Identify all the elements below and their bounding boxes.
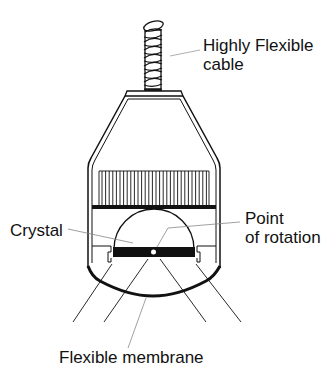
dome [114, 209, 194, 249]
backing-fins [99, 171, 209, 206]
cable-leader [170, 50, 200, 56]
cable-label: Highly Flexible cable [203, 36, 314, 74]
beam-lines [73, 259, 241, 322]
point-of-rotation-label: Point of rotation [245, 209, 321, 247]
point-label-line2: of rotation [245, 228, 321, 247]
cable-label-line1: Highly Flexible [203, 36, 314, 55]
flexible-cable [143, 19, 165, 92]
cable-label-line2: cable [203, 55, 314, 74]
point-label-line1: Point [245, 209, 321, 228]
crystal-label: Crystal [10, 221, 63, 240]
point-of-rotation-dot [151, 250, 156, 255]
membrane-label: Flexible membrane [59, 348, 204, 367]
